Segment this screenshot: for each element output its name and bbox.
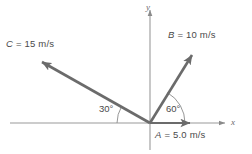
vector-b-label: B = 10 m/s (168, 30, 216, 40)
vector-b-equals: = (175, 29, 186, 40)
vector-c-label: C = 15 m/s (6, 39, 54, 49)
angle-arc-30 (117, 107, 122, 124)
vector-diagram: C = 15 m/s B = 10 m/s A = 5.0 m/s 30° 60… (0, 0, 252, 154)
vector-c-magnitude: 15 (25, 38, 36, 49)
vector-a-label: A = 5.0 m/s (155, 130, 206, 140)
vector-b-magnitude: 10 (186, 29, 197, 40)
diagram-canvas (0, 0, 252, 154)
vector-a-magnitude: 5.0 (173, 129, 187, 140)
vector-b-units: m/s (200, 29, 216, 40)
vector-c-units: m/s (38, 38, 54, 49)
vector-c-equals: = (13, 38, 24, 49)
x-axis-label: x (231, 118, 235, 127)
angle-30-label: 30° (99, 104, 113, 114)
vector-a-equals: = (162, 129, 173, 140)
angle-60-label: 60° (166, 104, 180, 114)
y-axis-label: y (146, 3, 150, 12)
vector-a-units: m/s (190, 129, 206, 140)
vector-c-symbol: C (6, 38, 13, 49)
vector-c (42, 62, 150, 123)
